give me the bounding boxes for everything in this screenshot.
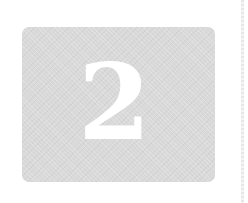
vertical-divider [241, 0, 244, 203]
number-tile: 2 [22, 27, 215, 182]
canvas: 2 [0, 0, 248, 203]
tile-numeral: 2 [78, 51, 150, 155]
